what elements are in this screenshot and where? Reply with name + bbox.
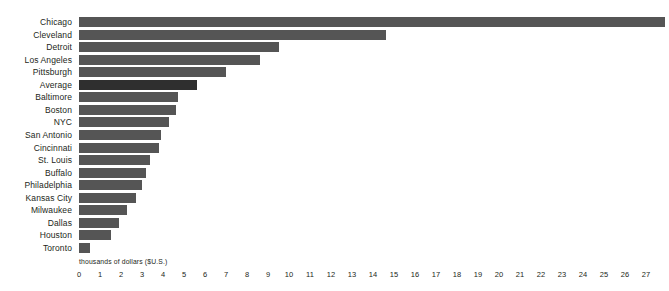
- x-axis: thousands of dollars ($U.S.) 01234567891…: [0, 258, 669, 291]
- chart-row: Boston: [0, 104, 669, 116]
- bar-track: [79, 193, 136, 203]
- category-label: Baltimore: [0, 91, 72, 103]
- bar-track: [79, 130, 161, 140]
- chart-row: St. Louis: [0, 154, 669, 166]
- chart-row: Detroit: [0, 41, 669, 53]
- x-axis-title: thousands of dollars ($U.S.): [79, 258, 167, 265]
- bar-track: [79, 55, 260, 65]
- bar-track: [79, 205, 127, 215]
- chart-row: Chicago: [0, 16, 669, 28]
- bar-track: [79, 30, 386, 40]
- chart-row: Toronto: [0, 242, 669, 254]
- bar-track: [79, 17, 665, 27]
- bar: [79, 30, 386, 40]
- chart-row: Buffalo: [0, 167, 669, 179]
- chart-row: Milwaukee: [0, 204, 669, 216]
- bar: [79, 42, 279, 52]
- chart-row: Dallas: [0, 217, 669, 229]
- bar: [79, 105, 176, 115]
- chart-row: Average: [0, 79, 669, 91]
- bar: [79, 130, 161, 140]
- bar-track: [79, 168, 146, 178]
- chart-row: NYC: [0, 116, 669, 128]
- bar: [79, 117, 169, 127]
- bar-track: [79, 218, 119, 228]
- bar: [79, 180, 142, 190]
- bar: [79, 80, 197, 90]
- bar-track: [79, 180, 142, 190]
- chart-row: Kansas City: [0, 192, 669, 204]
- bar-track: [79, 230, 111, 240]
- chart-row: Pittsburgh: [0, 66, 669, 78]
- bar: [79, 143, 159, 153]
- bar: [79, 155, 150, 165]
- category-label: San Antonio: [0, 129, 72, 141]
- bar-track: [79, 243, 90, 253]
- x-tick-label: 27: [634, 270, 658, 279]
- category-label: Philadelphia: [0, 179, 72, 191]
- category-label: Milwaukee: [0, 204, 72, 216]
- category-label: Buffalo: [0, 167, 72, 179]
- category-label: Toronto: [0, 242, 72, 254]
- category-label: Los Angeles: [0, 54, 72, 66]
- chart-row: San Antonio: [0, 129, 669, 141]
- chart-row: Baltimore: [0, 91, 669, 103]
- category-label: NYC: [0, 116, 72, 128]
- bar: [79, 193, 136, 203]
- bar: [79, 218, 119, 228]
- bar: [79, 205, 127, 215]
- bar: [79, 55, 260, 65]
- bar: [79, 17, 665, 27]
- bar-track: [79, 105, 176, 115]
- category-label: Kansas City: [0, 192, 72, 204]
- bar-track: [79, 42, 279, 52]
- bar-track: [79, 67, 226, 77]
- category-label: St. Louis: [0, 154, 72, 166]
- bar-track: [79, 155, 150, 165]
- category-label: Pittsburgh: [0, 66, 72, 78]
- bar-track: [79, 80, 197, 90]
- chart-row: Los Angeles: [0, 54, 669, 66]
- category-label: Detroit: [0, 41, 72, 53]
- category-label: Average: [0, 79, 72, 91]
- bar: [79, 243, 90, 253]
- chart-row: Cincinnati: [0, 142, 669, 154]
- bar-track: [79, 92, 178, 102]
- bar: [79, 92, 178, 102]
- category-label: Houston: [0, 229, 72, 241]
- category-label: Boston: [0, 104, 72, 116]
- bar: [79, 230, 111, 240]
- chart-row: Philadelphia: [0, 179, 669, 191]
- category-label: Chicago: [0, 16, 72, 28]
- category-label: Cleveland: [0, 29, 72, 41]
- category-label: Dallas: [0, 217, 72, 229]
- bar-chart: ChicagoClevelandDetroitLos AngelesPittsb…: [0, 0, 669, 291]
- chart-row: Houston: [0, 229, 669, 241]
- bar-track: [79, 143, 159, 153]
- category-label: Cincinnati: [0, 142, 72, 154]
- plot-area: ChicagoClevelandDetroitLos AngelesPittsb…: [0, 0, 669, 291]
- bar: [79, 168, 146, 178]
- chart-row: Cleveland: [0, 29, 669, 41]
- bar: [79, 67, 226, 77]
- bar-track: [79, 117, 169, 127]
